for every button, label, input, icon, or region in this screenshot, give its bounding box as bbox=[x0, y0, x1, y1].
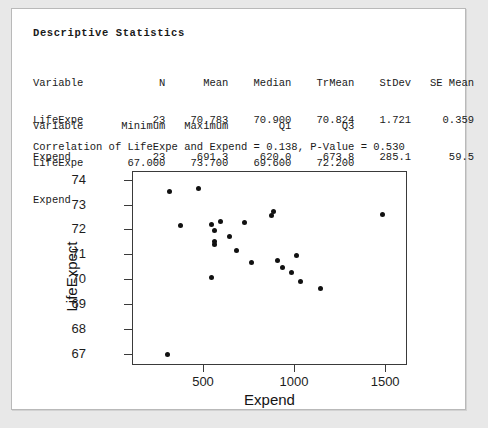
y-axis-tick-label: 73 bbox=[46, 197, 86, 212]
y-axis-tick bbox=[124, 329, 132, 330]
x-axis-tick bbox=[203, 365, 204, 372]
data-point bbox=[167, 189, 172, 194]
x-axis-label: Expend bbox=[132, 391, 407, 408]
data-point bbox=[165, 352, 170, 357]
plot-area bbox=[132, 171, 407, 365]
data-point bbox=[234, 248, 239, 253]
y-axis-tick-label: 72 bbox=[46, 221, 86, 236]
data-point bbox=[380, 212, 385, 217]
data-point bbox=[249, 260, 254, 265]
data-point bbox=[271, 209, 276, 214]
data-point bbox=[196, 186, 201, 191]
data-point bbox=[289, 270, 294, 275]
page-title: Descriptive Statistics bbox=[33, 27, 185, 39]
x-axis-tick bbox=[385, 365, 386, 372]
y-axis-tick-label: 74 bbox=[46, 172, 86, 187]
data-point bbox=[298, 279, 303, 284]
scatter-plot: LifeExpect Expend 6768697071727374500100… bbox=[12, 159, 467, 411]
y-axis-tick-label: 71 bbox=[46, 246, 86, 261]
y-axis-tick-label: 69 bbox=[46, 296, 86, 311]
table-header-row: Variable Minimum Maximum Q1 Q3 bbox=[33, 120, 354, 132]
x-axis-tick bbox=[294, 365, 295, 372]
y-axis-tick bbox=[124, 354, 132, 355]
data-point bbox=[209, 222, 214, 227]
y-axis-tick bbox=[124, 254, 132, 255]
y-axis-tick-label: 67 bbox=[46, 346, 86, 361]
data-point bbox=[275, 258, 280, 263]
session-window: Descriptive Statistics Variable N Mean M… bbox=[11, 8, 466, 410]
y-axis-tick-label: 70 bbox=[46, 271, 86, 286]
data-point bbox=[218, 219, 223, 224]
data-point bbox=[242, 220, 247, 225]
data-point bbox=[318, 286, 323, 291]
y-axis-tick-label: 68 bbox=[46, 321, 86, 336]
data-point bbox=[178, 223, 183, 228]
x-axis-tick-label: 1500 bbox=[355, 374, 415, 389]
table-header-row: Variable N Mean Median TrMean StDev SE M… bbox=[33, 77, 474, 89]
data-point bbox=[209, 275, 214, 280]
y-axis-tick bbox=[124, 279, 132, 280]
correlation-result: Correlation of LifeExpe and Expend = 0.1… bbox=[33, 141, 405, 153]
data-point bbox=[280, 265, 285, 270]
y-axis-tick bbox=[124, 180, 132, 181]
y-axis-tick bbox=[124, 229, 132, 230]
y-axis-tick bbox=[124, 304, 132, 305]
data-point bbox=[227, 234, 232, 239]
x-axis-tick-label: 1000 bbox=[264, 374, 324, 389]
data-point bbox=[212, 228, 217, 233]
data-point bbox=[294, 253, 299, 258]
x-axis-tick-label: 500 bbox=[173, 374, 233, 389]
y-axis-tick bbox=[124, 205, 132, 206]
